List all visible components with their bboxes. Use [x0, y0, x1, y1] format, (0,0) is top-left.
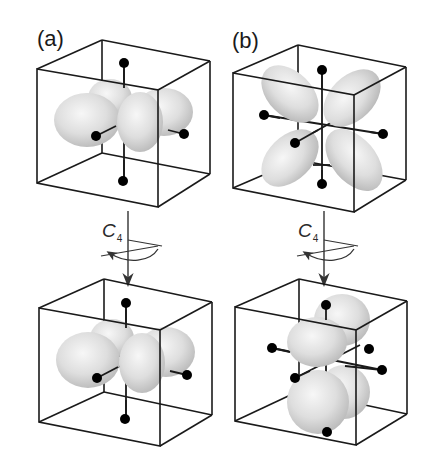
rotation-plane — [297, 246, 354, 256]
ligand-dot — [119, 58, 129, 68]
ligand-dot — [364, 344, 374, 354]
cube-b-after — [235, 279, 407, 445]
ligand-dot — [317, 179, 327, 189]
c4-label-b: C4 — [298, 220, 317, 242]
ligand-dot — [321, 300, 331, 310]
orbital-lobes — [54, 79, 193, 152]
ligand-dot — [92, 373, 102, 383]
ligand-dot — [121, 298, 131, 308]
orbital-lobes — [56, 319, 195, 393]
operation-subscript: 4 — [313, 233, 319, 244]
ligand-dot — [290, 373, 300, 383]
operation-subscript: 4 — [117, 233, 123, 244]
cube-a-before — [37, 40, 210, 207]
operation-symbol: C — [298, 220, 312, 241]
ligand-dot — [259, 110, 269, 120]
symmetry-diagram — [0, 0, 432, 463]
ligand-dot — [120, 414, 130, 424]
operation-symbol: C — [102, 220, 116, 241]
ligand-dot — [377, 365, 387, 375]
ligand-dot — [267, 343, 277, 353]
ligand-dot — [378, 129, 388, 139]
c4-label-a: C4 — [102, 220, 121, 242]
ligand-dot — [322, 427, 332, 437]
ligand-dot — [118, 176, 128, 186]
ligand-dot — [91, 131, 101, 141]
ligand-dot — [290, 138, 300, 148]
cube-a-after — [39, 279, 212, 446]
cube-b-before — [233, 45, 406, 212]
ligand-dot — [182, 370, 192, 380]
rotation-plane — [101, 246, 158, 256]
panel-label-a: (a) — [37, 26, 64, 52]
ligand-dot — [317, 65, 327, 75]
ligand-dot — [179, 129, 189, 139]
panel-label-b: (b) — [232, 28, 259, 54]
